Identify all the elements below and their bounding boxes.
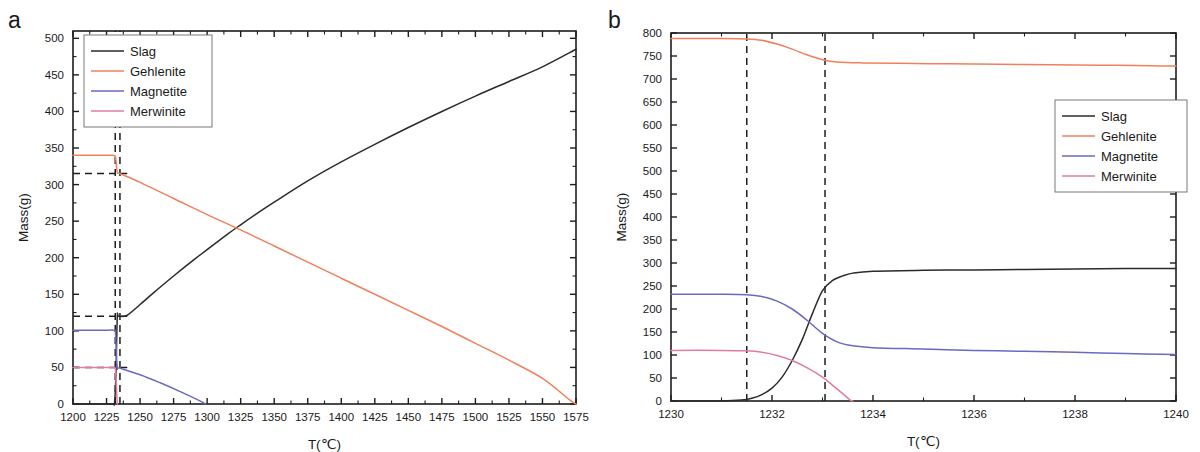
legend-label-merwinite: Merwinite [1101,169,1157,184]
y-tick-label: 450 [643,188,662,200]
x-axis-title: T(℃) [907,434,940,449]
series-line-gehlenite [73,155,576,404]
x-axis-title: T(℃) [308,437,341,452]
panel-b: b 12301232123412361238124005010015020025… [600,0,1200,452]
y-tick-label: 400 [45,105,64,117]
y-tick-label: 250 [643,280,662,292]
y-tick-label: 200 [45,252,64,264]
x-tick-label: 1350 [261,411,287,423]
y-tick-label: 150 [643,326,662,338]
legend-label-merwinite: Merwinite [130,104,186,119]
legend-label-slag: Slag [1101,109,1127,124]
panel-b-plot: 1230123212341236123812400501001502002503… [600,0,1200,452]
legend-label-gehlenite: Gehlenite [130,64,186,79]
y-tick-label: 800 [643,27,662,39]
y-tick-label: 100 [45,325,64,337]
y-tick-label: 500 [45,32,64,44]
y-tick-label: 100 [643,349,662,361]
y-axis-title: Mass(g) [16,193,31,242]
x-tick-label: 1225 [94,411,120,423]
panel-a-plot: 1200122512501275130013251350137514001425… [0,0,600,452]
x-tick-label: 1250 [127,411,153,423]
x-tick-label: 1275 [161,411,187,423]
y-tick-label: 250 [45,215,64,227]
y-tick-label: 50 [649,372,662,384]
x-tick-label: 1575 [563,411,589,423]
legend-label-gehlenite: Gehlenite [1101,129,1157,144]
y-tick-label: 600 [643,119,662,131]
y-tick-label: 350 [643,234,662,246]
legend: SlagGehleniteMagnetiteMerwinite [1055,100,1187,192]
x-tick-label: 1450 [396,411,422,423]
x-tick-label: 1500 [463,411,489,423]
annotation-guides [747,33,825,401]
y-tick-label: 50 [51,361,64,373]
x-tick-label: 1300 [194,411,220,423]
y-axis-title: Mass(g) [614,193,629,242]
legend-label-slag: Slag [130,44,156,59]
y-tick-label: 150 [45,288,64,300]
legend: SlagGehleniteMagnetiteMerwinite [84,35,212,127]
y-tick-label: 450 [45,69,64,81]
y-tick-label: 0 [656,395,662,407]
panel-b-letter: b [608,9,621,32]
x-tick-label: 1550 [530,411,556,423]
x-tick-label: 1400 [328,411,354,423]
figure-container: a 12001225125012751300132513501375140014… [0,0,1200,452]
panel-a: a 12001225125012751300132513501375140014… [0,0,600,452]
x-tick-label: 1240 [1163,408,1189,420]
y-tick-label: 200 [643,303,662,315]
x-tick-label: 1425 [362,411,388,423]
y-tick-label: 550 [643,142,662,154]
x-tick-label: 1525 [496,411,522,423]
y-tick-label: 750 [643,50,662,62]
x-tick-label: 1375 [295,411,321,423]
x-tick-label: 1475 [429,411,455,423]
legend-label-magnetite: Magnetite [1101,149,1158,164]
x-tick-label: 1230 [658,408,684,420]
x-tick-label: 1236 [961,408,987,420]
x-tick-label: 1325 [228,411,254,423]
x-tick-label: 1238 [1062,408,1088,420]
y-tick-label: 650 [643,96,662,108]
legend-label-magnetite: Magnetite [130,84,187,99]
y-tick-label: 300 [643,257,662,269]
y-tick-label: 0 [58,398,64,410]
y-tick-label: 300 [45,179,64,191]
x-tick-label: 1200 [60,411,86,423]
y-tick-label: 350 [45,142,64,154]
panel-a-letter: a [8,9,21,32]
axis-ticks: 1230123212341236123812400501001502002503… [643,27,1189,420]
y-tick-label: 400 [643,211,662,223]
x-tick-label: 1234 [860,408,886,420]
x-tick-label: 1232 [759,408,785,420]
series-line-merwinite [73,367,117,404]
y-tick-label: 500 [643,165,662,177]
y-tick-label: 700 [643,73,662,85]
